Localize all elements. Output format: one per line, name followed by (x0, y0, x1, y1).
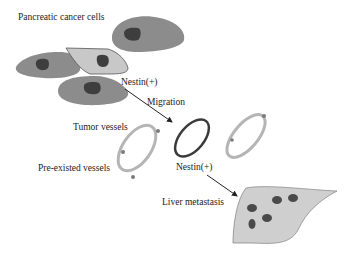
label-tumor-vessels: Tumor vessels (73, 123, 128, 133)
tumor-vessel-right (220, 108, 272, 163)
metastasis-arrow (207, 175, 237, 196)
label-pancreatic-cancer-cells: Pancreatic cancer cells (18, 13, 105, 23)
label-liver-metastasis: Liver metastasis (162, 198, 224, 208)
label-preexisted-vessels: Pre-existed vessels (38, 164, 110, 174)
label-migration: Migration (147, 98, 185, 108)
label-nestin-positive-vessel: Nestin(+) (176, 163, 213, 173)
cancer-cell-top-right (112, 16, 184, 52)
label-nestin-positive-cell: Nestin(+) (121, 78, 158, 88)
liver-metastasis (233, 187, 337, 244)
diagram-canvas: Pancreatic cancer cells Nestin(+) Migrat… (0, 0, 349, 253)
cancer-cell-bottom (58, 76, 128, 105)
nestin-positive-vessel (169, 113, 216, 162)
